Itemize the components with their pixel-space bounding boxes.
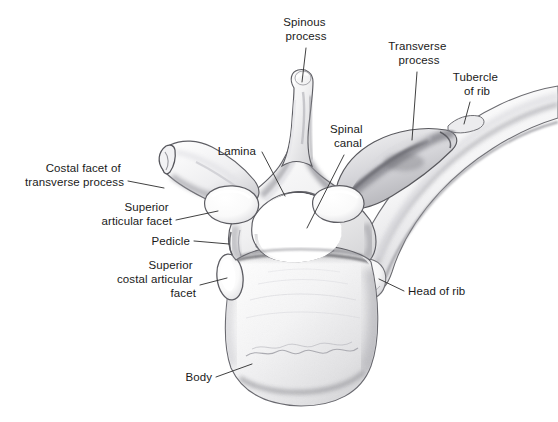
label-pedicle: Pedicle <box>152 235 190 247</box>
leader-pedicle <box>194 241 229 244</box>
label-tubercle-of-rib: Tubercle of rib <box>453 71 501 97</box>
label-head-of-rib: Head of rib <box>408 285 465 297</box>
label-transverse-process: Transverse process <box>388 40 449 66</box>
spinous-process <box>282 70 313 166</box>
spinous-process-shape <box>282 70 313 166</box>
label-superior-articular-facet: Superior articular facet <box>101 201 172 227</box>
leader-costal-facet-of-transverse-process <box>128 181 164 188</box>
label-body: Body <box>185 371 212 383</box>
vertebral-body-group <box>215 236 396 412</box>
label-costal-facet-of-transverse-process: Costal facet of transverse process <box>25 162 124 188</box>
label-superior-costal-articular-facet: Superior costal articular facet <box>117 259 197 299</box>
anatomical-figure-thoracic-vertebra: Spinous process Transverse process Tuber… <box>0 0 558 422</box>
label-lamina: Lamina <box>218 145 257 157</box>
vertebra-bone-drawing <box>159 70 558 412</box>
vertebra-illustration-svg: Spinous process Transverse process Tuber… <box>0 0 558 422</box>
label-spinous-process: Spinous process <box>283 16 329 42</box>
label-spinal-canal: Spinal canal <box>330 123 366 149</box>
